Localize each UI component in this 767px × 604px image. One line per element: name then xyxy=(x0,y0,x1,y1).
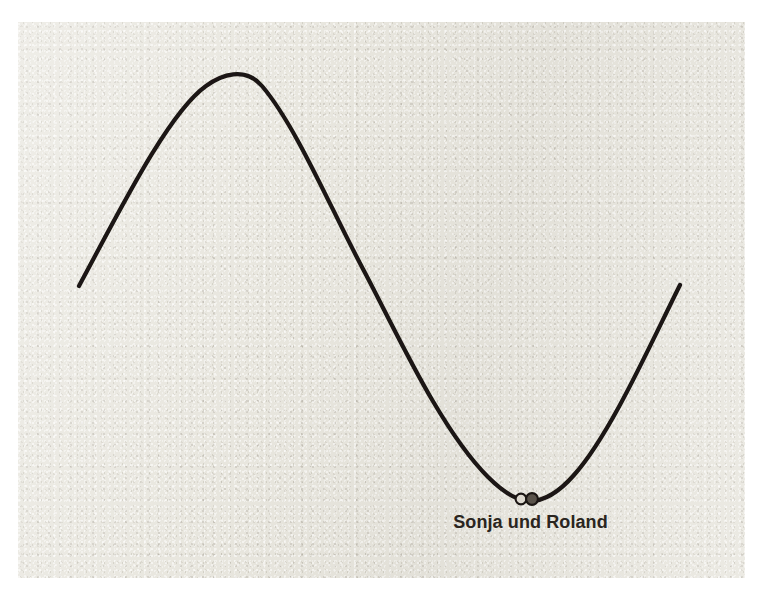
point-label: Sonja und Roland xyxy=(0,512,767,533)
marker-sonja xyxy=(516,494,527,505)
point-label-text: Sonja und Roland xyxy=(453,512,608,533)
wave-curve xyxy=(79,74,680,501)
figure-canvas: Sonja und Roland xyxy=(0,0,767,604)
marker-roland xyxy=(526,493,538,505)
